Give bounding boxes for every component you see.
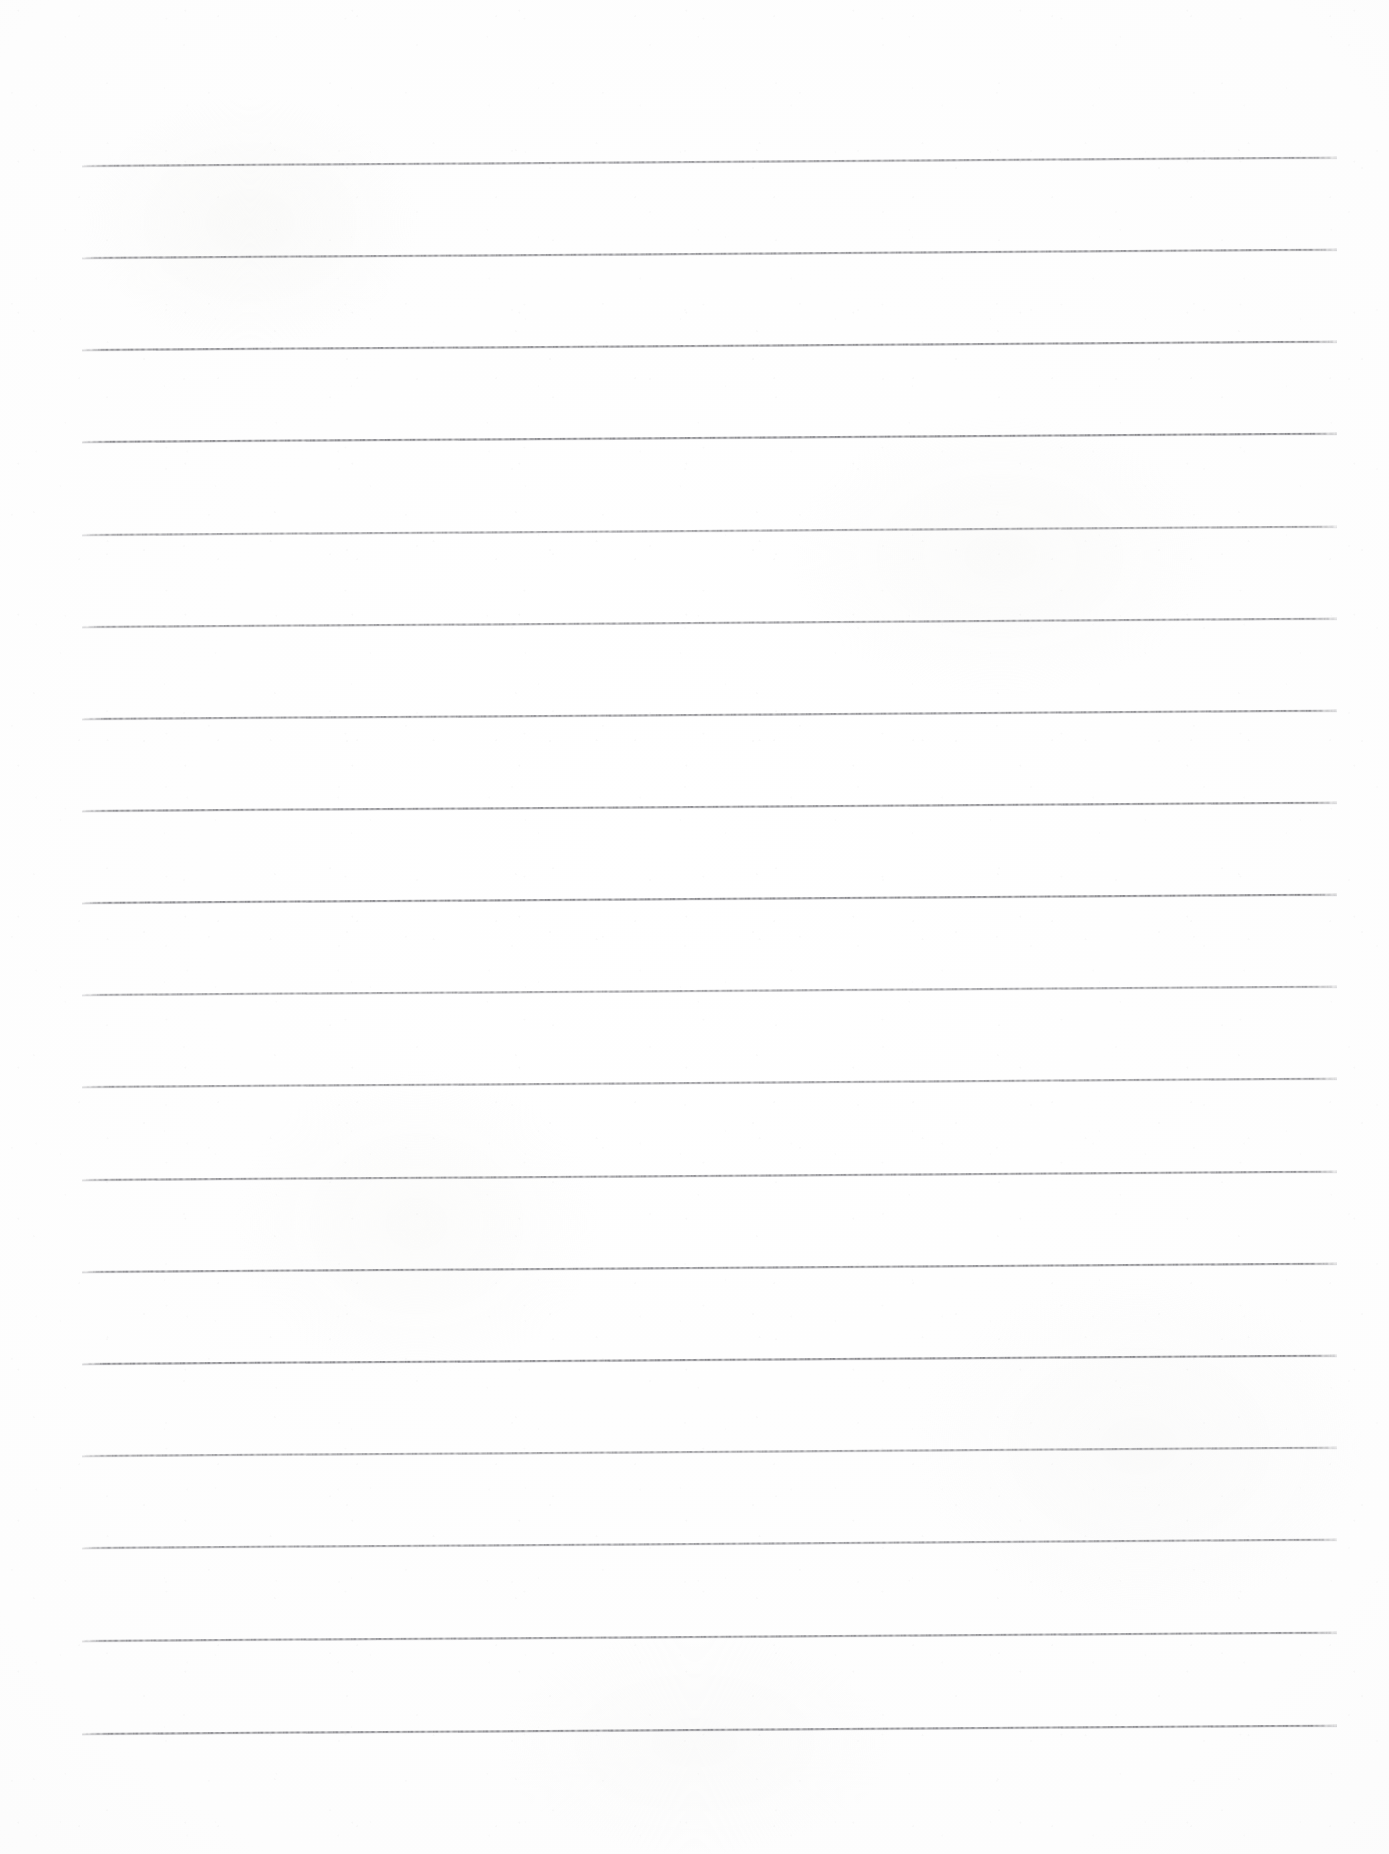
scanned-page <box>0 0 1389 1854</box>
paper-background <box>0 0 1389 1854</box>
